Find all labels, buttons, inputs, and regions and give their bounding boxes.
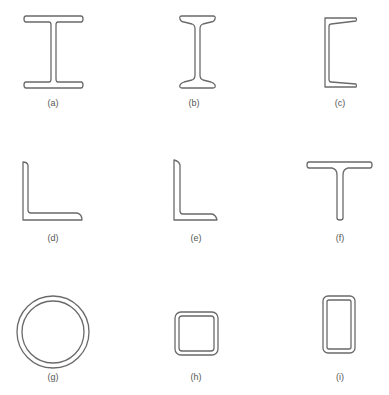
label-f: (f) xyxy=(336,233,345,243)
tee-shape xyxy=(307,162,372,220)
i-beam-shape xyxy=(180,16,216,88)
equal-angle-shape xyxy=(23,162,82,220)
label-a: (a) xyxy=(48,98,59,108)
label-e: (e) xyxy=(191,233,202,243)
round-tube-inner xyxy=(22,301,84,363)
label-i: (i) xyxy=(336,372,344,382)
label-d: (d) xyxy=(48,233,59,243)
sections-canvas xyxy=(0,0,389,395)
unequal-angle-shape xyxy=(174,160,217,220)
rect-tube-inner xyxy=(327,300,351,349)
label-g: (g) xyxy=(48,372,59,382)
label-h: (h) xyxy=(191,372,202,382)
label-c: (c) xyxy=(335,98,346,108)
channel-shape xyxy=(325,18,357,87)
square-tube-inner xyxy=(179,316,214,351)
square-tube-outer xyxy=(175,312,218,355)
wide-flange-beam-shape xyxy=(24,16,83,88)
label-b: (b) xyxy=(189,98,200,108)
rect-tube-outer xyxy=(323,296,355,353)
round-tube-outer xyxy=(17,296,89,368)
